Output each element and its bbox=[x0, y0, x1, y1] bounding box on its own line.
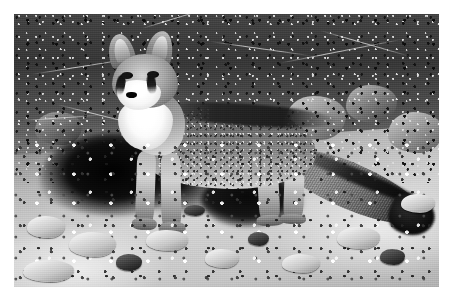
foreground-stone bbox=[282, 254, 320, 273]
foreground-stone bbox=[146, 230, 189, 252]
foreground-stone bbox=[380, 249, 406, 265]
foreground-stone bbox=[401, 194, 435, 213]
region-den-shadow bbox=[201, 172, 303, 227]
foreground-stone bbox=[248, 232, 269, 246]
foreground-stone bbox=[69, 232, 116, 257]
foreground-stone bbox=[27, 216, 65, 238]
background-boulder bbox=[286, 96, 346, 140]
background-boulder bbox=[388, 112, 439, 153]
background-boulder bbox=[346, 85, 397, 123]
screenshot-canvas bbox=[0, 0, 454, 300]
foreground-stone bbox=[116, 254, 142, 270]
foreground-stone bbox=[337, 227, 380, 249]
foreground-stone bbox=[184, 205, 205, 216]
photograph bbox=[14, 14, 439, 287]
foreground-stone bbox=[205, 249, 239, 268]
foreground-stone bbox=[23, 260, 74, 282]
